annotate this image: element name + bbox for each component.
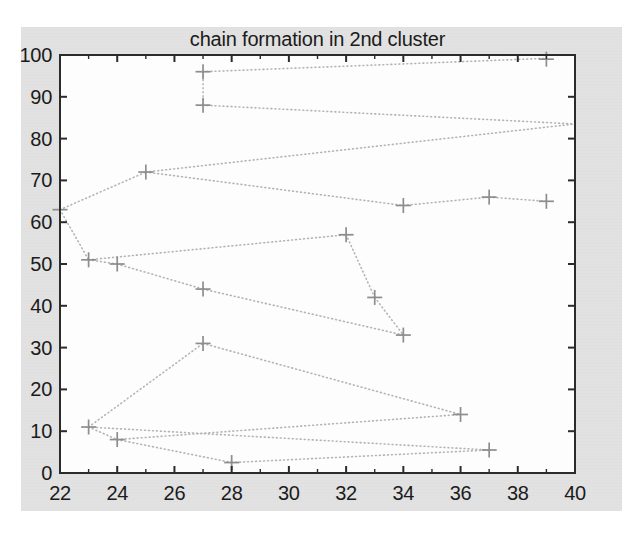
- data-point-marker: [110, 257, 125, 272]
- data-point-marker: [539, 194, 554, 209]
- y-axis-tick-label: 80: [30, 127, 52, 150]
- y-axis-tick-label: 40: [30, 294, 52, 317]
- chain-segment: [146, 124, 575, 172]
- chain-segment: [117, 414, 460, 439]
- chart-plot: [0, 0, 643, 542]
- chain-segment: [60, 210, 89, 260]
- data-point-marker: [482, 190, 497, 205]
- chain-segment: [117, 440, 231, 463]
- chain-segment: [203, 58, 546, 71]
- data-point-marker: [196, 336, 211, 351]
- x-axis-tick-label: 40: [564, 482, 586, 505]
- chain-segment: [117, 264, 203, 289]
- y-axis-tick-label: 70: [30, 169, 52, 192]
- y-axis-tick-label: 30: [30, 336, 52, 359]
- chain-segment: [203, 289, 403, 335]
- x-axis-tick-label: 30: [278, 482, 300, 505]
- figure-page: chain formation in 2nd cluster 222426283…: [0, 0, 643, 542]
- data-point-marker: [110, 432, 125, 447]
- data-point-marker: [81, 420, 96, 435]
- chain-segment: [232, 450, 490, 463]
- y-axis-tick-label: 50: [30, 253, 52, 276]
- y-axis-tick-label: 100: [20, 44, 52, 67]
- data-point-marker: [196, 282, 211, 297]
- chain-lines-group: [60, 58, 575, 462]
- data-point-marker: [81, 252, 96, 267]
- chain-segment: [346, 235, 375, 298]
- data-point-marker: [138, 165, 153, 180]
- data-point-marker: [396, 198, 411, 213]
- x-axis-tick-label: 34: [393, 482, 415, 505]
- data-point-marker: [339, 227, 354, 242]
- y-axis-tick-label: 10: [30, 420, 52, 443]
- x-axis-tick-label: 22: [49, 482, 71, 505]
- y-axis-tick-label: 0: [41, 462, 52, 485]
- x-axis-tick-label: 24: [106, 482, 128, 505]
- y-axis-tick-label: 90: [30, 85, 52, 108]
- y-axis-tick-label: 20: [30, 378, 52, 401]
- chain-segment: [60, 172, 146, 210]
- axis-frame: [60, 55, 575, 473]
- x-axis-tick-label: 38: [507, 482, 529, 505]
- data-point-marker: [196, 98, 211, 113]
- x-axis-tick-label: 36: [450, 482, 472, 505]
- data-point-marker: [482, 443, 497, 458]
- chain-segment: [89, 343, 203, 427]
- data-point-marker: [453, 407, 468, 422]
- chain-segment: [403, 197, 489, 205]
- chain-segment: [89, 235, 347, 260]
- chain-segment: [489, 197, 546, 201]
- chain-segment: [146, 172, 404, 205]
- data-point-marker: [367, 290, 382, 305]
- chain-segment: [203, 105, 575, 124]
- x-axis-tick-label: 28: [221, 482, 243, 505]
- x-axis-tick-label: 32: [335, 482, 357, 505]
- data-point-marker: [539, 52, 554, 67]
- axis-frame-group: [60, 55, 575, 473]
- x-axis-tick-label: 26: [164, 482, 186, 505]
- chain-segment: [203, 343, 461, 414]
- data-point-marker: [396, 328, 411, 343]
- data-markers-group: [53, 52, 554, 470]
- data-point-marker: [196, 64, 211, 79]
- y-axis-tick-label: 60: [30, 211, 52, 234]
